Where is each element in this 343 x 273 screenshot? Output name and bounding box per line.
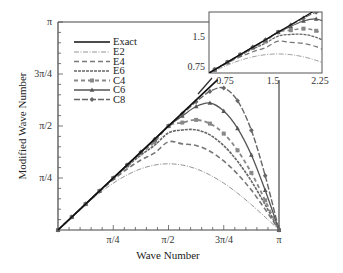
x-tick-labels: π/4 π/2 3π/4 π xyxy=(107,234,282,245)
curves xyxy=(56,80,282,233)
y-tick-label: π xyxy=(47,16,52,27)
inset-y-tick-label: 1.5 xyxy=(193,31,206,42)
y-axis-label: Modified Wave Number xyxy=(16,72,28,179)
y-tick-label: π/4 xyxy=(39,172,52,183)
x-axis-label: Wave Number xyxy=(136,249,200,261)
x-tick-label: π xyxy=(276,234,281,245)
modified-wave-number-chart: π/4 π/2 3π/4 π π/4 π/2 3π/4 π Wave Numbe… xyxy=(0,0,343,273)
y-tick-label: π/2 xyxy=(39,120,52,131)
curve-c4 xyxy=(58,120,279,230)
y-minor-ticks xyxy=(58,22,63,220)
legend-label-c8: C8 xyxy=(113,94,125,105)
inset-plot: 1.5 0.75 0.75 1.5 2.25 xyxy=(188,2,332,94)
curve-c8 xyxy=(58,88,279,230)
inset-y-tick-label: 0.75 xyxy=(188,61,206,72)
x-tick-label: π/4 xyxy=(107,234,120,245)
inset-x-tick-label: 2.25 xyxy=(311,75,329,86)
markers-c8 xyxy=(56,85,282,232)
y-tick-labels: π/4 π/2 3π/4 π xyxy=(34,16,52,183)
inset-x-tick-label: 0.75 xyxy=(216,75,234,86)
curve-e4 xyxy=(58,141,279,230)
curve-c6 xyxy=(58,103,279,230)
x-tick-label: π/2 xyxy=(162,234,175,245)
legend: Exact E2 E4 E6 C4 C6 C8 xyxy=(74,36,137,105)
y-tick-label: 3π/4 xyxy=(34,68,52,79)
legend-swatches xyxy=(74,42,110,102)
curve-exact xyxy=(58,80,218,230)
curve-e2 xyxy=(58,164,279,230)
x-tick-label: 3π/4 xyxy=(215,234,233,245)
inset-x-tick-label: 1.5 xyxy=(267,75,280,86)
x-minor-ticks xyxy=(69,225,279,230)
